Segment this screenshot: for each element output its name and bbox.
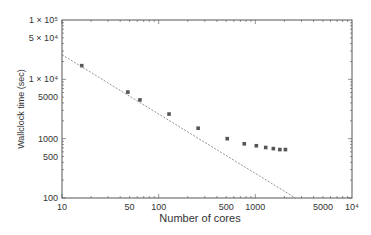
y-tick-label: 1 × 10⁵: [29, 15, 58, 25]
x-tick-label: 100: [151, 202, 166, 212]
y-tick-label: 5 × 10⁴: [29, 33, 58, 43]
data-point: [284, 148, 288, 152]
data-point: [278, 148, 282, 152]
x-tick-label: 500: [219, 202, 234, 212]
data-point: [225, 137, 229, 141]
data-point: [126, 90, 130, 94]
y-tick-label: 100: [43, 193, 58, 203]
y-axis-label: Wallclock time (sec): [16, 69, 26, 149]
y-tick-label: 5000: [38, 92, 58, 102]
data-point: [242, 142, 246, 146]
y-tick-label: 1 × 10⁴: [29, 74, 58, 84]
data-point: [138, 98, 142, 102]
axis-ticks: [62, 20, 352, 198]
data-point: [167, 112, 171, 116]
x-tick-label: 1000: [245, 202, 265, 212]
x-tick-label: 5000: [313, 202, 333, 212]
data-point: [196, 126, 200, 130]
y-tick-label: 500: [43, 152, 58, 162]
scaling-chart: 10501005001000500010⁴100500100050001 × 1…: [0, 0, 371, 235]
chart-svg: 10501005001000500010⁴100500100050001 × 1…: [0, 0, 371, 235]
x-tick-label: 50: [125, 202, 135, 212]
y-tick-label: 1000: [38, 134, 58, 144]
data-point: [272, 147, 276, 151]
tick-labels: 10501005001000500010⁴100500100050001 × 1…: [29, 15, 359, 212]
x-tick-label: 10: [57, 202, 67, 212]
plot-frame: [62, 20, 352, 198]
x-tick-label: 10⁴: [345, 202, 359, 212]
data-point: [264, 146, 268, 150]
x-axis-label: Number of cores: [159, 212, 241, 224]
ideal-scaling-line: [62, 55, 295, 198]
series-layer: [62, 55, 295, 198]
data-point: [255, 144, 259, 148]
